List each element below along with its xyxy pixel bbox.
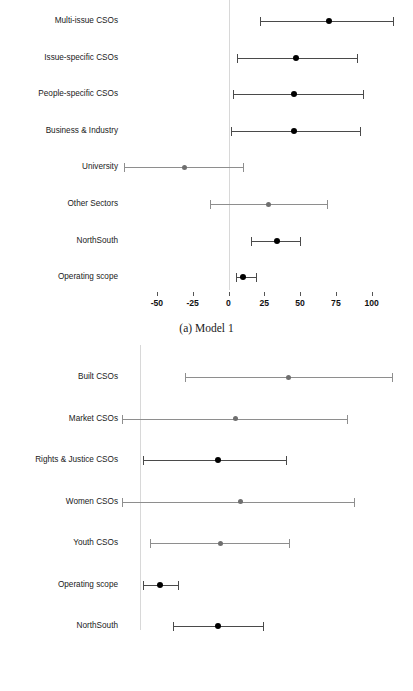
forest-row: Business & Industry [0,123,413,139]
axis-tick-label: -50 [151,298,163,308]
ci-upper-cap [327,200,328,209]
ci-lower-cap [122,498,123,507]
ci-upper-cap [243,163,244,172]
forest-plot-panel-model-1: Multi-issue CSOsIssue-specific CSOsPeopl… [0,0,413,345]
ci-lower-cap [236,273,237,282]
estimate-point [233,416,238,421]
plot-area-model-2: Built CSOsMarket CSOsRights & Justice CS… [0,345,413,635]
axis-tick [157,292,158,296]
estimate-point [182,165,187,170]
row-label: NorthSouth [0,233,118,249]
forest-row: Women CSOs [0,494,413,510]
ci-upper-cap [363,90,364,99]
estimate-point [218,541,223,546]
ci-lower-cap [143,456,144,465]
ci-upper-cap [354,498,355,507]
forest-row: Other Sectors [0,196,413,212]
axis-tick-label: 25 [260,298,270,308]
row-label: NorthSouth [0,618,118,634]
row-label: Issue-specific CSOs [0,50,118,66]
row-label: Women CSOs [0,494,118,510]
forest-row: University [0,159,413,175]
forest-row: Rights & Justice CSOs [0,452,413,468]
forest-row: Youth CSOs [0,535,413,551]
ci-lower-cap [122,415,123,424]
estimate-point [274,238,280,244]
estimate-point [291,128,297,134]
ci-upper-cap [392,373,393,382]
estimate-point [215,623,221,629]
axis-tick-label: -25 [186,298,198,308]
forest-row: Built CSOs [0,369,413,385]
ci-lower-cap [210,200,211,209]
row-label: Youth CSOs [0,535,118,551]
axis-tick [336,292,337,296]
row-label: Business & Industry [0,123,118,139]
estimate-point [293,55,299,61]
forest-row: Operating scope [0,577,413,593]
forest-row: Operating scope [0,269,413,285]
estimate-point [157,582,163,588]
plot-area-model-1: Multi-issue CSOsIssue-specific CSOsPeopl… [0,0,413,300]
row-label: Multi-issue CSOs [0,13,118,29]
axis-tick-label: 50 [295,298,305,308]
forest-row: NorthSouth [0,618,413,634]
row-label: Market CSOs [0,411,118,427]
ci-upper-cap [360,127,361,136]
axis-tick-label: 0 [226,298,231,308]
estimate-point [238,499,243,504]
axis-tick-label: 75 [331,298,341,308]
ci-lower-cap [185,373,186,382]
row-label: Rights & Justice CSOs [0,452,118,468]
estimate-point [266,202,271,207]
ci-upper-cap [393,17,394,26]
ci-lower-cap [260,17,261,26]
estimate-point [215,457,221,463]
axis-tick [300,292,301,296]
forest-plot-panel-model-2: Built CSOsMarket CSOsRights & Justice CS… [0,345,413,691]
forest-row: Market CSOs [0,411,413,427]
axis-tick-label: 100 [365,298,379,308]
axis-tick [229,292,230,296]
ci-lower-cap [231,127,232,136]
row-label: University [0,159,118,175]
ci-upper-cap [256,273,257,282]
x-axis-model-1: -50-250255075100 [0,292,413,318]
ci-upper-cap [300,237,301,246]
ci-lower-cap [150,539,151,548]
forest-row: Multi-issue CSOs [0,13,413,29]
forest-row: People-specific CSOs [0,86,413,102]
forest-row: NorthSouth [0,233,413,249]
ci-lower-cap [173,622,174,631]
row-label: People-specific CSOs [0,86,118,102]
row-label: Operating scope [0,269,118,285]
panel-caption-model-1: (a) Model 1 [0,322,413,334]
ci-upper-cap [286,456,287,465]
ci-lower-cap [233,90,234,99]
axis-tick [264,292,265,296]
axis-tick [372,292,373,296]
confidence-interval-line [233,94,363,95]
ci-lower-cap [143,581,144,590]
row-label: Operating scope [0,577,118,593]
ci-lower-cap [237,54,238,63]
forest-row: Issue-specific CSOs [0,50,413,66]
axis-tick [193,292,194,296]
row-label: Other Sectors [0,196,118,212]
ci-upper-cap [347,415,348,424]
ci-lower-cap [251,237,252,246]
estimate-point [286,375,291,380]
estimate-point [240,274,246,280]
ci-upper-cap [263,622,264,631]
ci-upper-cap [357,54,358,63]
row-label: Built CSOs [0,369,118,385]
ci-upper-cap [289,539,290,548]
estimate-point [326,18,332,24]
estimate-point [291,91,297,97]
ci-upper-cap [178,581,179,590]
ci-lower-cap [124,163,125,172]
